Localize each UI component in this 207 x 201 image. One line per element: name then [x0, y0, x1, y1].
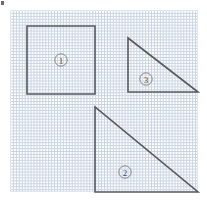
- figure-canvas: 1 3 2: [0, 0, 207, 201]
- triangle-2-outline[interactable]: [95, 107, 198, 192]
- figures-layer: 1 3 2: [0, 0, 207, 201]
- figure-2-label-text: 2: [123, 168, 128, 178]
- figure-triangle-3[interactable]: 3: [128, 38, 198, 92]
- figure-1-label-text: 1: [59, 56, 64, 66]
- triangle-3-outline[interactable]: [128, 38, 198, 92]
- figure-3-label-text: 3: [144, 75, 149, 85]
- figure-triangle-2[interactable]: 2: [95, 107, 198, 192]
- figure-square-1[interactable]: 1: [27, 26, 95, 94]
